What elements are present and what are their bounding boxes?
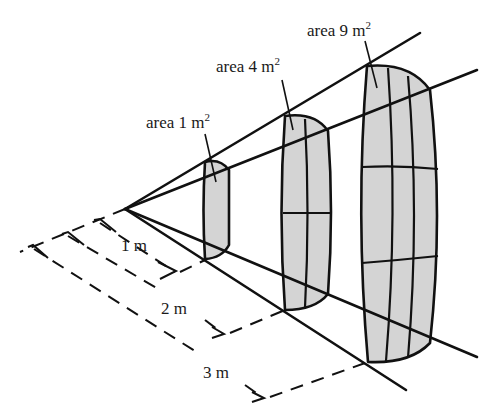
dimension-1m-connector: [180, 260, 205, 272]
dimension-2m-connector: [230, 310, 285, 333]
tick-3m-end: [252, 392, 264, 402]
label-distance-2m: 2 m: [161, 299, 187, 318]
inverse-square-diagram: area 1 m2 area 4 m2 area 9 m2 1 m 2 m 3 …: [0, 0, 488, 407]
dimension-baseline: [20, 209, 125, 252]
label-area-4: area 4 m2: [216, 55, 280, 76]
label-distance-3m: 3 m: [203, 363, 229, 382]
tick-1m-end: [158, 262, 176, 279]
label-area-9: area 9 m2: [307, 19, 371, 40]
label-area-1: area 1 m2: [146, 111, 210, 132]
label-distance-1m: 1 m: [121, 236, 147, 255]
tick-2m-end: [212, 327, 224, 338]
dimension-3m-connector: [270, 362, 368, 397]
